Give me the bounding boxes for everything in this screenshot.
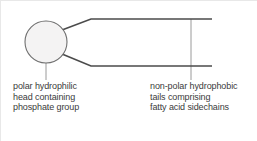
- head-label-line-1: polar hydrophilic: [13, 81, 79, 92]
- polar-hydrophilic-head-label: polar hydrophilic head containing phosph…: [13, 81, 79, 113]
- head-label-line-3: phosphate group: [13, 102, 79, 113]
- phosphate-head-circle: [25, 21, 67, 63]
- tails-label-line-1: non-polar hydrophobic: [150, 81, 237, 92]
- non-polar-hydrophobic-tails-label: non-polar hydrophobic tails comprising f…: [150, 81, 237, 113]
- lower-tail-line: [62, 54, 212, 66]
- phospholipid-diagram-canvas: polar hydrophilic head containing phosph…: [0, 0, 257, 141]
- tails-label-line-3: fatty acid sidechains: [150, 102, 237, 113]
- head-label-line-2: head containing: [13, 92, 79, 103]
- tails-label-line-2: tails comprising: [150, 92, 237, 103]
- upper-tail-line: [62, 19, 212, 30]
- phospholipid-figure: [0, 0, 257, 141]
